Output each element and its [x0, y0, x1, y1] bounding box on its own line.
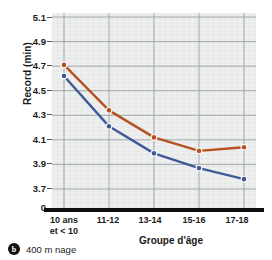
y-tick-label: 4.7 [16, 61, 46, 71]
figure-400m-nage: Record (min) 5.1 4.9 4.7 4.5 4.3 4.1 3.9… [0, 0, 272, 260]
plot-area [52, 13, 256, 209]
data-point-serie-bleue [61, 73, 67, 79]
y-tick-label: 4.9 [16, 37, 46, 47]
x-tick-label-group-5: 17-18 [206, 215, 268, 226]
x-tick-line1: 17-18 [225, 215, 248, 225]
y-tick-label: 5.1 [16, 13, 46, 23]
x-axis-line [44, 208, 264, 212]
data-point-serie-bleue [241, 176, 247, 182]
data-point-serie-bleue [106, 123, 112, 129]
y-tick-label: 3.7 [16, 184, 46, 194]
gridlines [52, 13, 256, 209]
y-tick-label: 4.5 [16, 86, 46, 96]
data-point-serie-rouge [106, 107, 112, 113]
data-point-serie-rouge [151, 135, 157, 141]
caption-badge-icon: b [8, 243, 20, 255]
x-tick-line1: 11-12 [97, 215, 120, 225]
data-point-serie-bleue [151, 150, 157, 156]
data-point-serie-rouge [196, 148, 202, 154]
y-tick-label: 4.3 [16, 110, 46, 120]
x-tick-line1: 15-16 [182, 215, 205, 225]
x-tick-line1: 13-14 [138, 215, 161, 225]
data-point-serie-rouge [61, 62, 67, 68]
x-tick-line1: 10 ans [50, 215, 78, 225]
y-tick-label: 3.9 [16, 159, 46, 169]
caption-text: 400 m nage [26, 244, 76, 255]
figure-caption: b 400 m nage [8, 243, 76, 255]
y-tick-label: 4.1 [16, 135, 46, 145]
x-axis-title: Groupe d'âge [76, 235, 266, 246]
data-point-serie-rouge [241, 144, 247, 150]
data-point-serie-bleue [196, 165, 202, 171]
y-tick-label-zero: 0 [16, 203, 46, 213]
chart-svg [52, 13, 256, 209]
